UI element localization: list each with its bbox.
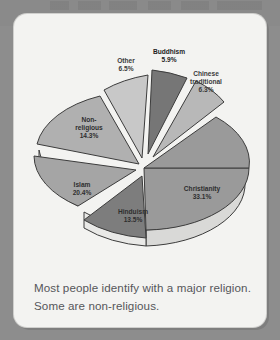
cropped-title-glyphs [50,1,262,10]
screenshot-root: Christianity 33.1% Islam 20.4% Non- reli… [0,0,280,340]
label-nonreligious-value: 14.3% [80,132,99,139]
label-buddhism-value: 5.9% [161,56,176,63]
pie-chart-svg: Christianity 33.1% Islam 20.4% Non- reli… [20,16,260,278]
label-christianity-value: 33.1% [193,193,212,200]
label-christianity-name: Christianity [184,185,221,193]
label-chinese-name-1: Chinese [193,70,219,77]
label-other-name: Other [117,57,135,64]
infographic-card: Christianity 33.1% Islam 20.4% Non- reli… [14,14,266,327]
label-chinese-name-2: traditional [190,78,222,85]
label-other-value: 6.5% [118,65,133,72]
label-islam-value: 20.4% [73,189,92,196]
label-chinese-value: 6.3% [198,86,213,93]
label-islam-name: Islam [74,181,91,188]
pie-chart: Christianity 33.1% Islam 20.4% Non- reli… [14,16,266,278]
caption-line-1: Most people identify with a major religi… [34,279,256,297]
label-nonreligious-name-2: religious [75,124,103,132]
label-buddhism-name: Buddhism [153,48,185,55]
label-hinduism-name: Hinduism [118,208,148,215]
caption-line-2: Some are non-religious. [34,297,256,315]
label-nonreligious-name-1: Non- [81,116,96,123]
label-hinduism-value: 13.5% [124,216,143,223]
chart-caption: Most people identify with a major religi… [34,279,256,315]
